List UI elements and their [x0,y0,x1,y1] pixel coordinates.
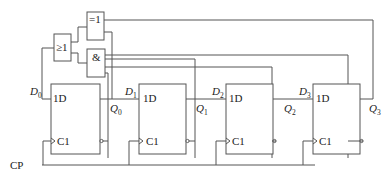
svg-text:0: 0 [118,108,122,117]
wire-and-in-q0bar [105,73,108,158]
svg-text:1D: 1D [53,92,67,104]
svg-text:Q: Q [110,102,118,114]
svg-text:1D: 1D [229,92,243,104]
svg-text:1: 1 [133,91,137,100]
svg-text:3: 3 [307,91,311,100]
label-q3: Q 3 [369,102,381,117]
svg-text:Q: Q [284,102,292,114]
flipflop-1: 1D C1 [139,84,189,154]
svg-text:3: 3 [377,108,381,117]
svg-text:D: D [211,85,220,97]
label-d2: D 2 [211,85,224,100]
or-gate-label: ≥1 [56,41,68,53]
flipflop-0: 1D C1 [51,84,103,154]
and-gate-label: & [92,51,101,63]
svg-text:Q: Q [196,102,204,114]
svg-text:C1: C1 [146,135,159,147]
svg-text:C1: C1 [232,135,245,147]
label-d3: D 3 [298,85,311,100]
svg-text:D: D [29,85,38,97]
label-d0: D 0 [29,85,42,100]
svg-text:D: D [124,85,133,97]
xor-gate-label: =1 [89,13,101,25]
svg-text:2: 2 [292,108,296,117]
svg-text:1D: 1D [316,92,330,104]
label-d1: D 1 [124,85,137,100]
svg-text:C1: C1 [319,135,332,147]
label-q0: Q 0 [110,102,122,117]
svg-text:Q: Q [369,102,377,114]
svg-text:2: 2 [220,91,224,100]
wire-and-to-or [71,53,87,63]
label-q1: Q 1 [196,102,208,117]
svg-text:1: 1 [204,108,208,117]
inverted-output-bubble [100,139,103,142]
flipflop-3: 1D C1 [313,84,363,154]
svg-text:C1: C1 [57,135,70,147]
label-q2: Q 2 [284,102,296,117]
wire-xor-to-or [71,27,87,42]
xor-gate: =1 [87,12,104,40]
circuit-diagram: ≥1 =1 & 1D C1 1D C1 1D C1 [0,0,387,176]
inverted-output-bubble [186,139,189,142]
clock-label: CP [10,159,23,171]
flipflop-2: 1D C1 [226,84,276,154]
svg-text:0: 0 [38,91,42,100]
svg-text:D: D [298,85,307,97]
or-gate: ≥1 [54,34,71,61]
and-gate: & [87,49,105,77]
svg-text:1D: 1D [143,92,157,104]
